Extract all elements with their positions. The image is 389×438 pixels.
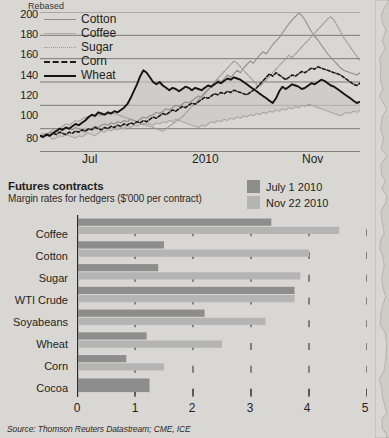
- legend-label-cotton: Cotton: [81, 12, 116, 26]
- section-title: Futures contracts: [8, 180, 202, 192]
- legend-item-cotton: Cotton: [44, 12, 116, 26]
- legend-label-corn: Corn: [81, 54, 107, 68]
- legend-label-wheat: Wheat: [81, 68, 116, 82]
- torn-paper-edge: [375, 0, 389, 438]
- july-swatch-icon: [247, 180, 260, 193]
- bar-chart-svg: [77, 215, 367, 397]
- bar-legend-label-july: July 1 2010: [266, 181, 322, 193]
- nov-swatch-icon: [247, 196, 260, 209]
- bar-chart-legend: July 1 2010 Nov 22 2010: [247, 180, 367, 212]
- line-chart-y-axis: 200 180 160 140 120 100 80: [0, 0, 40, 160]
- x-tick-jul: Jul: [82, 152, 97, 166]
- bar-x-tick-2: 2: [189, 401, 196, 415]
- bar-x-tick-1: 1: [132, 401, 139, 415]
- bar-x-tick-5: 5: [362, 401, 369, 415]
- y-tick-200: 200: [20, 8, 38, 20]
- y-tick-100: 100: [20, 109, 38, 121]
- bar-label-coffee: Coffee: [36, 228, 68, 240]
- bar-label-sugar: Sugar: [39, 272, 68, 284]
- source-note: Source: Thomson Reuters Datastream; CME,…: [7, 424, 191, 434]
- bar-chart-plot-area: [77, 215, 367, 397]
- bar-x-tick-4: 4: [304, 401, 311, 415]
- legend-item-coffee: Coffee: [44, 26, 116, 40]
- x-tick-nov: Nov: [302, 152, 323, 166]
- legend-item-sugar: Sugar: [44, 40, 116, 54]
- legend-item-corn: Corn: [44, 54, 116, 68]
- y-tick-120: 120: [20, 89, 38, 101]
- bar-chart: Coffee Cotton Sugar WTI Crude Soyabeans …: [0, 215, 375, 415]
- line-chart-x-axis: Jul 2010 Nov: [40, 152, 360, 170]
- legend-label-coffee: Coffee: [81, 26, 116, 40]
- figure-page: Rebased 200 180 160 140 120 100 80 Cotto…: [0, 0, 389, 438]
- legend-label-sugar: Sugar: [81, 40, 113, 54]
- section-header: Futures contracts Margin rates for hedge…: [8, 180, 202, 204]
- bar-legend-item-july: July 1 2010: [247, 180, 367, 193]
- y-tick-180: 180: [20, 28, 38, 40]
- bar-label-cotton: Cotton: [36, 250, 68, 262]
- bar-chart-value-axis: 0 1 2 3 4 5: [0, 401, 375, 417]
- bar-label-wti-crude: WTI Crude: [15, 294, 68, 306]
- bar-legend-item-nov: Nov 22 2010: [247, 196, 367, 209]
- y-tick-140: 140: [20, 69, 38, 81]
- bar-label-corn: Corn: [44, 360, 68, 372]
- bar-x-tick-3: 3: [247, 401, 254, 415]
- bar-x-tick-0: 0: [74, 401, 81, 415]
- section-subtitle: Margin rates for hedgers ($'000 per cont…: [8, 193, 202, 204]
- y-tick-160: 160: [20, 48, 38, 60]
- bar-label-wheat: Wheat: [36, 338, 68, 350]
- bar-label-soyabeans: Soyabeans: [13, 316, 68, 328]
- bar-label-cocoa: Cocoa: [36, 382, 68, 394]
- y-tick-80: 80: [26, 132, 38, 144]
- line-chart-legend: Cotton Coffee Sugar Corn Wheat: [44, 12, 116, 82]
- legend-item-wheat: Wheat: [44, 68, 116, 82]
- line-chart: Rebased 200 180 160 140 120 100 80 Cotto…: [0, 0, 375, 172]
- bar-legend-label-nov: Nov 22 2010: [266, 197, 328, 209]
- x-tick-2010: 2010: [192, 152, 219, 166]
